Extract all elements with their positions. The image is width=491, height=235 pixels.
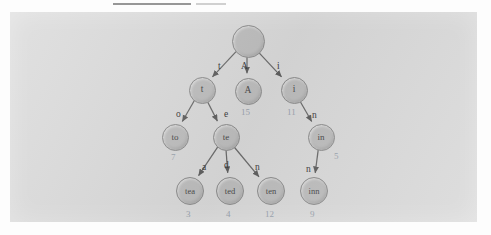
trie-node-value-ten: 12 bbox=[265, 210, 274, 219]
trie-edge-label-te-tea: a bbox=[202, 163, 206, 173]
trie-node-ted[interactable]: ted bbox=[216, 177, 244, 205]
trie-edge-label-t-to: o bbox=[176, 110, 181, 120]
trie-node-value-to: 7 bbox=[171, 153, 176, 162]
trie-node-label: inn bbox=[309, 186, 320, 195]
trie-edge-label-i-in: n bbox=[312, 111, 317, 121]
trie-node-label: ten bbox=[266, 186, 276, 195]
trie-node-label: t bbox=[201, 85, 204, 95]
trie-edge-label-in-inn: n bbox=[306, 165, 311, 175]
trie-node-ten[interactable]: ten bbox=[257, 177, 285, 205]
trie-node-in[interactable]: in bbox=[308, 124, 335, 151]
trie-edge-label-te-ted: d bbox=[224, 161, 229, 171]
scan-artifact-line bbox=[113, 3, 191, 5]
trie-node-value-i: 11 bbox=[287, 108, 296, 117]
trie-edge-t-to-te bbox=[207, 101, 218, 122]
trie-node-te[interactable]: te bbox=[213, 124, 240, 151]
trie-node-value-inn: 9 bbox=[310, 210, 315, 219]
trie-node-inn[interactable]: inn bbox=[300, 177, 328, 205]
trie-node-tea[interactable]: tea bbox=[176, 177, 204, 205]
trie-node-label: A bbox=[245, 86, 252, 96]
trie-node-label: to bbox=[171, 132, 178, 141]
trie-edge-label-te-ten: n bbox=[255, 163, 260, 173]
trie-edge-root-to-t bbox=[212, 52, 236, 77]
trie-node-value-A: 15 bbox=[241, 108, 250, 117]
figure-page: tAitoteinteatedteninn tAioeadnnn 1511753… bbox=[0, 0, 491, 235]
trie-node-label: tea bbox=[185, 186, 195, 195]
trie-node-value-in: 5 bbox=[334, 152, 339, 161]
trie-edge-t-to-to bbox=[182, 100, 194, 121]
trie-node-value-ted: 4 bbox=[226, 210, 231, 219]
trie-node-i[interactable]: i bbox=[281, 77, 308, 104]
trie-edge-i-to-in bbox=[299, 100, 311, 121]
trie-node-t[interactable]: t bbox=[189, 77, 216, 104]
trie-node-label: i bbox=[293, 85, 296, 95]
trie-edge-in-to-inn bbox=[315, 149, 318, 173]
trie-edge-label-root-t: t bbox=[218, 62, 221, 72]
trie-node-label: ted bbox=[225, 186, 235, 195]
trie-node-value-tea: 3 bbox=[186, 210, 191, 219]
trie-diagram-panel: tAitoteinteatedteninn tAioeadnnn 1511753… bbox=[10, 12, 477, 222]
trie-node-root[interactable] bbox=[232, 25, 265, 58]
trie-edge-label-root-A: A bbox=[241, 62, 248, 72]
trie-edge-label-t-te: e bbox=[224, 110, 228, 120]
trie-node-label: te bbox=[223, 132, 230, 141]
trie-node-to[interactable]: to bbox=[162, 124, 189, 151]
scan-artifact-line-secondary bbox=[196, 3, 226, 5]
trie-node-A[interactable]: A bbox=[235, 78, 262, 105]
trie-edge-label-root-i: i bbox=[277, 62, 280, 72]
trie-node-label: in bbox=[317, 132, 324, 141]
